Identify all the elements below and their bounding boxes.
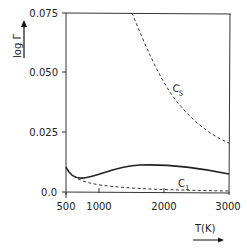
plot-frame — [62, 13, 231, 195]
series-solid-line — [66, 165, 229, 178]
x-tick-500: 500 — [56, 201, 75, 212]
y-tick-0025: 0.025 — [29, 127, 58, 138]
y-axis-ticks — [62, 13, 66, 132]
chart: 0.075 0.050 0.025 0.0 500 1000 2000 3000… — [0, 0, 247, 250]
x-axis-label: T(K) — [194, 223, 216, 234]
x-tick-1000: 1000 — [86, 201, 111, 212]
y-tick-00: 0.0 — [41, 187, 57, 198]
series-cs-line — [132, 13, 229, 143]
series-cs-label: CS — [171, 82, 185, 98]
series-c1-line — [66, 168, 229, 191]
x-axis-arrow-icon — [193, 238, 224, 243]
x-tick-3000: 3000 — [215, 201, 240, 212]
y-tick-0050: 0.050 — [29, 67, 58, 78]
y-axis-label: log Γ — [12, 34, 23, 58]
y-tick-0075: 0.075 — [29, 8, 58, 19]
x-tick-2000: 2000 — [151, 201, 176, 212]
